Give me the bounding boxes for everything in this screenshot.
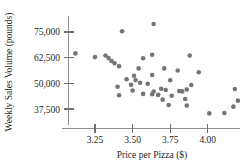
data-point (180, 89, 185, 94)
data-point (109, 59, 114, 64)
data-point (141, 92, 146, 97)
data-point (187, 53, 192, 58)
x-tick-label: 3.25 (87, 135, 104, 145)
data-point (136, 66, 141, 71)
data-point (159, 86, 164, 91)
data-point-group (73, 22, 240, 116)
data-point (196, 70, 201, 75)
data-point (231, 104, 236, 109)
data-point (189, 83, 194, 88)
data-point (163, 88, 168, 93)
data-point (151, 22, 156, 27)
x-tick-label: 4.00 (199, 135, 216, 145)
x-tick-label: 3.75 (162, 135, 179, 145)
data-point (184, 87, 189, 92)
y-tick-label: 37,500 (34, 105, 60, 115)
data-point (150, 53, 155, 58)
data-point (133, 78, 138, 83)
data-point (233, 87, 238, 92)
scatter-chart: 75,00062,50050,00037,500 3.253.503.754.0… (0, 0, 248, 164)
data-point (162, 66, 167, 71)
data-point (236, 98, 241, 103)
y-tick-label-group: 75,00062,50050,00037,500 (34, 27, 60, 114)
axes-group (62, 16, 240, 129)
data-point (169, 93, 174, 98)
data-point (124, 77, 129, 82)
y-tick-label: 50,000 (34, 79, 60, 89)
data-point (73, 51, 78, 56)
data-point (145, 82, 150, 87)
data-point (138, 80, 143, 85)
data-point (222, 111, 227, 116)
data-point (175, 68, 180, 73)
data-point (207, 111, 212, 116)
data-point (129, 83, 134, 88)
data-point (130, 88, 135, 93)
y-axis-title: Weekly Sales Volume (pounds) (4, 13, 15, 132)
data-point (150, 73, 155, 78)
data-point (141, 56, 146, 61)
x-tick-label: 3.50 (124, 135, 141, 145)
data-point (168, 78, 173, 83)
data-point (183, 97, 188, 102)
data-point (117, 93, 122, 98)
data-point (160, 97, 165, 102)
data-point (184, 103, 189, 108)
data-point (120, 29, 125, 34)
x-tick-label-group: 3.253.503.754.00 (87, 135, 217, 145)
x-axis-title: Price per Pizza ($) (117, 150, 187, 161)
plot-canvas: 75,00062,50050,00037,500 3.253.503.754.0… (0, 0, 248, 164)
y-tick-label: 75,000 (34, 27, 60, 37)
data-point (166, 103, 171, 108)
data-point (93, 55, 98, 60)
data-point (117, 64, 122, 69)
y-tick-label: 62,500 (34, 53, 60, 63)
data-point (115, 84, 120, 89)
data-point (156, 93, 161, 98)
data-point (132, 73, 137, 78)
data-point (150, 92, 155, 97)
